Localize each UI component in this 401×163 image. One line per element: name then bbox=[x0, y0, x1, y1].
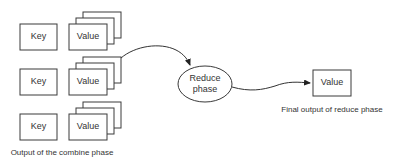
final-value-label: Value bbox=[321, 77, 343, 87]
reduce-label-line2: phase bbox=[193, 84, 218, 94]
value-label: Value bbox=[77, 31, 99, 41]
final-value-node: Value bbox=[313, 70, 351, 96]
value-label: Value bbox=[77, 121, 99, 131]
final-caption: Final output of reduce phase bbox=[281, 105, 383, 114]
reduce-label-line1: Reduce bbox=[189, 73, 220, 83]
kv-row-3: Key Value bbox=[20, 102, 121, 140]
key-label: Key bbox=[31, 121, 47, 131]
value-label: Value bbox=[77, 76, 99, 86]
kv-row-1: Key Value bbox=[20, 12, 121, 50]
key-label: Key bbox=[31, 31, 47, 41]
reduce-node: Reduce phase bbox=[178, 66, 232, 102]
arrow-to-final bbox=[232, 82, 310, 90]
combine-caption: Output of the combine phase bbox=[11, 148, 114, 157]
key-label: Key bbox=[31, 76, 47, 86]
arrow-to-reduce bbox=[121, 46, 190, 65]
mapreduce-diagram: Key Value Key Value Key Value Output of … bbox=[0, 0, 401, 163]
kv-row-2: Key Value bbox=[20, 57, 121, 95]
